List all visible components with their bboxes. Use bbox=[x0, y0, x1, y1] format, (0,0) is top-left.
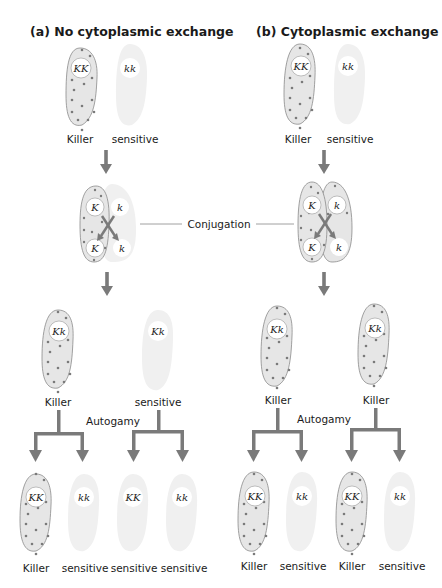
phenotype-label: Killer bbox=[363, 394, 390, 406]
phenotype-label: sensitive bbox=[112, 133, 159, 145]
exconjugant-killer-b-2: Kk bbox=[358, 304, 389, 387]
nucleus-label: k bbox=[334, 200, 340, 211]
nucleus-label: K bbox=[90, 202, 99, 213]
phenotype-label: Killer bbox=[23, 562, 50, 574]
arrow-down-icon bbox=[100, 150, 112, 174]
conjugation-label: Conjugation bbox=[187, 218, 250, 230]
nucleus-label: k bbox=[117, 202, 123, 213]
genotype-label: KK bbox=[247, 491, 263, 502]
genotype-label: Kk bbox=[269, 324, 284, 335]
nucleus-label: K bbox=[90, 243, 99, 254]
conjugating-pair-b: K K k k bbox=[298, 182, 352, 262]
genotype-label: kk bbox=[394, 491, 406, 502]
exconjugant-sensitive-a: Kk bbox=[142, 310, 173, 390]
phenotype-label: sensitive bbox=[111, 562, 158, 574]
progeny-a-2: kk bbox=[68, 474, 99, 551]
phenotype-label: sensitive bbox=[161, 562, 208, 574]
genotype-label: Kk bbox=[51, 326, 66, 337]
phenotype-label: sensitive bbox=[327, 133, 374, 145]
progeny-b-4: kk bbox=[384, 472, 415, 551]
genotype-label: kk bbox=[78, 492, 90, 503]
phenotype-label: Killer bbox=[67, 133, 94, 145]
progeny-b-1: KK bbox=[238, 472, 269, 555]
progeny-a-4: kk bbox=[166, 474, 197, 551]
phenotype-label: sensitive bbox=[135, 396, 182, 408]
phenotype-label: Killer bbox=[45, 396, 72, 408]
killer-paramecium-diagram: (a) No cytoplasmic exchange KK Killer kk… bbox=[0, 0, 442, 588]
phenotype-label: sensitive bbox=[379, 560, 426, 572]
genotype-label: KK bbox=[73, 63, 89, 74]
nucleus-label: k bbox=[119, 243, 125, 254]
genotype-label: Kk bbox=[150, 326, 165, 337]
phenotype-label: sensitive bbox=[280, 560, 327, 572]
progeny-b-2: kk bbox=[286, 472, 317, 551]
parent-sensitive-b: kk bbox=[334, 44, 365, 124]
genotype-label: KK bbox=[125, 492, 141, 503]
nucleus-label: K bbox=[307, 242, 316, 253]
progeny-b-3: KK bbox=[336, 472, 367, 555]
panel-a-title: (a) No cytoplasmic exchange bbox=[30, 24, 234, 39]
phenotype-label: Killer bbox=[265, 394, 292, 406]
genotype-label: KK bbox=[344, 491, 360, 502]
genotype-label: kk bbox=[296, 491, 308, 502]
genotype-label: KK bbox=[293, 61, 309, 72]
conjugation-callout: Conjugation bbox=[140, 218, 294, 230]
panel-a: (a) No cytoplasmic exchange KK Killer kk… bbox=[20, 24, 234, 574]
phenotype-label: Killer bbox=[339, 560, 366, 572]
panel-b: (b) Cytoplasmic exchange KK Killer kk se… bbox=[238, 24, 438, 572]
genotype-label: kk bbox=[176, 492, 188, 503]
arrow-down-icon bbox=[101, 272, 113, 296]
autogamy-label: Autogamy bbox=[297, 413, 351, 425]
parent-sensitive-a: kk bbox=[116, 44, 147, 125]
genotype-label: kk bbox=[124, 63, 136, 74]
genotype-label: KK bbox=[28, 492, 44, 503]
nucleus-label: K bbox=[307, 200, 316, 211]
phenotype-label: Killer bbox=[285, 133, 312, 145]
arrow-down-icon bbox=[318, 272, 330, 296]
parent-killer-a: KK bbox=[66, 48, 97, 131]
nucleus-label: k bbox=[336, 242, 342, 253]
genotype-label: Kk bbox=[367, 323, 382, 334]
phenotype-label: Killer bbox=[241, 560, 268, 572]
parent-killer-b: KK bbox=[284, 44, 315, 129]
conjugating-pair-a: K K k k bbox=[80, 184, 136, 262]
arrow-down-icon bbox=[318, 150, 330, 174]
panel-b-title: (b) Cytoplasmic exchange bbox=[256, 24, 438, 39]
exconjugant-killer-a: Kk bbox=[42, 310, 73, 393]
progeny-a-1: KK bbox=[20, 473, 51, 556]
exconjugant-killer-b-1: Kk bbox=[261, 306, 292, 389]
phenotype-label: sensitive bbox=[62, 562, 109, 574]
autogamy-label: Autogamy bbox=[86, 415, 140, 427]
genotype-label: kk bbox=[342, 61, 354, 72]
progeny-a-3: KK bbox=[117, 474, 148, 551]
